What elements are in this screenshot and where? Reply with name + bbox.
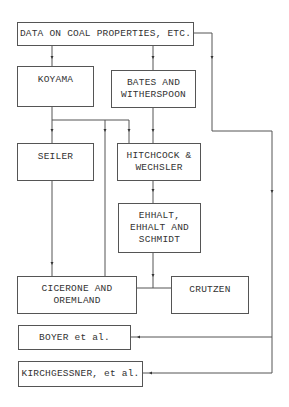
node-boyer: BOYER et al.	[18, 325, 131, 350]
node-hitchcock-wechsler: HITCHCOCK & WECHSLER	[117, 143, 201, 181]
node-cicerone-oremland: CICERONE AND OREMLAND	[17, 276, 137, 314]
node-seiler: SEILER	[17, 143, 94, 181]
node-koyama: KOYAMA	[17, 66, 94, 107]
node-crutzen: CRUTZEN	[171, 276, 249, 314]
node-bates-and-witherspoon: BATES AND WITHERSPOON	[111, 70, 196, 108]
node-kirchgessner: KIRCHGESSNER, et al.	[18, 361, 143, 387]
node-ehhalt: EHHALT, EHHALT AND SCHMIDT	[118, 203, 201, 253]
node-data-on-coal-properties: DATA ON COAL PROPERTIES, ETC.	[17, 22, 194, 46]
